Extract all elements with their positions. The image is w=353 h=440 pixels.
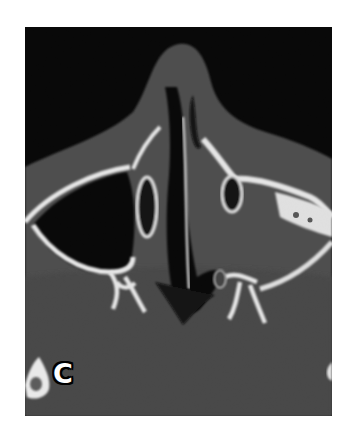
panel-label: C xyxy=(53,360,73,387)
ct-scan-image: C xyxy=(25,27,332,416)
